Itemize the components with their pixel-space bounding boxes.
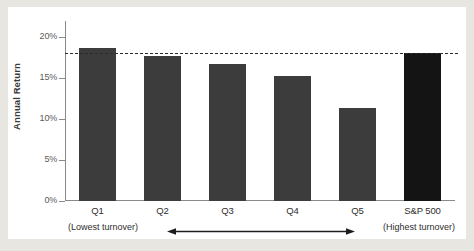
bar-s-p-500 — [404, 53, 441, 201]
y-axis-tick — [59, 201, 65, 202]
x-axis-label-q1: Q1 — [63, 205, 133, 216]
y-axis-tick-label: 5% — [11, 154, 57, 164]
y-axis-tick-label: 15% — [11, 72, 57, 82]
x-axis-label-q3: Q3 — [193, 205, 263, 216]
x-axis-label-s-p-500: S&P 500 — [388, 205, 458, 216]
turnover-direction-arrow-icon — [167, 227, 355, 236]
y-axis-tick-label: 10% — [11, 113, 57, 123]
y-axis-tick-label: 20% — [11, 31, 57, 41]
plot-area — [65, 21, 455, 201]
annotation-highest-turnover: (Highest turnover) — [383, 222, 455, 232]
chart-page: Annual Return 0%5%10%15%20% Q1Q2Q3Q4Q5S&… — [0, 0, 474, 251]
bar-q3 — [209, 64, 246, 201]
annotation-lowest-turnover: (Lowest turnover) — [68, 222, 138, 232]
bar-q5 — [339, 108, 376, 201]
y-axis-tick-label: 0% — [11, 195, 57, 205]
benchmark-reference-line — [65, 53, 458, 54]
x-axis-label-q2: Q2 — [128, 205, 198, 216]
x-axis-label-q5: Q5 — [323, 205, 393, 216]
x-axis-label-q4: Q4 — [258, 205, 328, 216]
bar-q1 — [79, 48, 116, 201]
turnover-annotation-row: (Lowest turnover) (Highest turnover) — [65, 222, 455, 238]
chart-card: Annual Return 0%5%10%15%20% Q1Q2Q3Q4Q5S&… — [8, 7, 466, 239]
y-axis-title: Annual Return — [11, 42, 22, 152]
bar-q4 — [274, 76, 311, 201]
bar-q2 — [144, 56, 181, 201]
